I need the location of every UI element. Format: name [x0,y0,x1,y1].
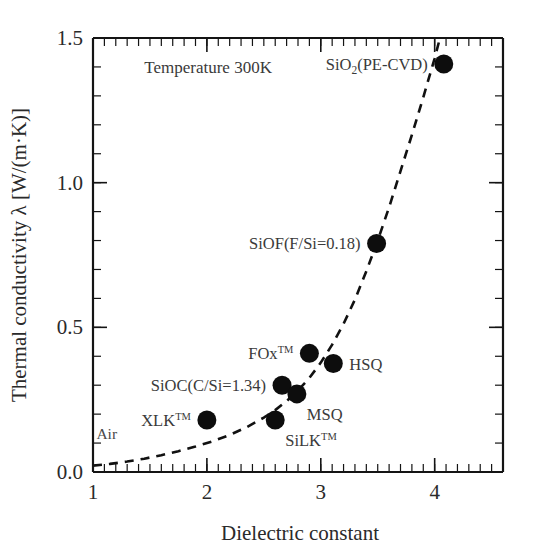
air-note: Air [96,425,118,442]
chart-figure: 1234 0.00.51.01.5 XLKTMSiLKTMSiOC(C/Si=1… [0,0,533,549]
y-tick-label: 0.0 [57,460,83,484]
x-tick-label: 1 [88,480,99,504]
label-MSQ: MSQ [307,405,343,424]
marker-FOx [300,344,319,363]
label-HSQ: HSQ [349,355,382,374]
marker-XLK [197,410,216,429]
temperature-note: Temperature 300K [144,58,272,77]
y-tick-label: 0.5 [57,315,83,339]
marker-MSQ [287,384,306,403]
marker-SiO2-PECVD [434,55,453,74]
label-SiO2-PECVD: SiO2(PE-CVD) [326,55,428,76]
x-tick-label: 4 [429,480,440,504]
y-axis-title: Thermal conductivity λ [W/(m·K)] [7,108,31,402]
thermal-conductivity-scatter-chart: 1234 0.00.51.01.5 XLKTMSiLKTMSiOC(C/Si=1… [0,0,533,549]
x-tick-label: 2 [202,480,213,504]
marker-HSQ [324,354,343,373]
marker-SiOF [367,234,386,253]
y-tick-label: 1.0 [57,171,83,195]
x-axis-title: Dielectric constant [221,521,379,545]
label-SiOF: SiOF(F/Si=0.18) [249,234,361,253]
x-tick-label: 3 [316,480,327,504]
y-tick-label: 1.5 [57,26,83,50]
marker-SiLK [266,410,285,429]
label-SiOC: SiOC(C/Si=1.34) [151,376,266,395]
